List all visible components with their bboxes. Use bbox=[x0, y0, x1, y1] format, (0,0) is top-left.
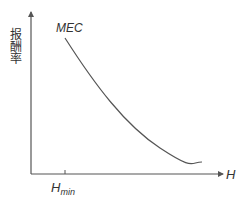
tick-label-subscript: min bbox=[60, 187, 75, 197]
chart-canvas bbox=[0, 0, 243, 201]
x-axis-label: H bbox=[226, 167, 235, 182]
mec-curve-label: MEC bbox=[56, 21, 83, 35]
tick-label-base: H bbox=[51, 180, 60, 195]
x-tick-label-hmin: Hmin bbox=[51, 180, 75, 197]
mec-curve bbox=[65, 38, 202, 164]
y-axis-label: 报酬率 bbox=[7, 28, 20, 64]
